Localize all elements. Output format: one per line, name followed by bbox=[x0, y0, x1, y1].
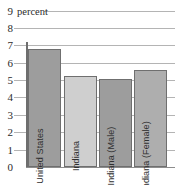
bar-series: United States Indiana Indiana (Male) Ind… bbox=[0, 0, 183, 185]
bar-label-united-states: United States bbox=[36, 128, 45, 183]
bar-indiana[interactable]: Indiana bbox=[64, 76, 97, 167]
bar-label-indiana: Indiana bbox=[72, 141, 81, 171]
bar-label-indiana-female: Indiana (Female) bbox=[142, 121, 151, 185]
bar-indiana-female[interactable]: Indiana (Female) bbox=[134, 70, 167, 167]
bar-chart: 9 8 7 6 5 4 3 2 1 0 percent United State… bbox=[0, 0, 183, 185]
bar-indiana-male[interactable]: Indiana (Male) bbox=[99, 79, 132, 167]
bar-united-states[interactable]: United States bbox=[28, 49, 61, 167]
bar-label-indiana-male: Indiana (Male) bbox=[107, 127, 116, 185]
